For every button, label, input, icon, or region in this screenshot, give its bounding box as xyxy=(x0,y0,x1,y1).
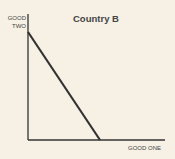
ppf-line xyxy=(28,32,100,140)
chart-plot xyxy=(0,0,175,159)
